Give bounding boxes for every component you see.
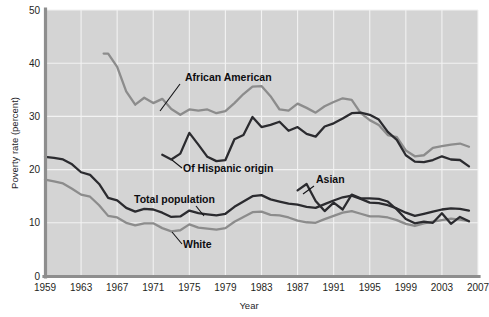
y-tick-label: 40	[29, 58, 41, 69]
series-label-total-population: Total population	[134, 193, 215, 205]
y-tick-label: 50	[29, 5, 41, 16]
chart-canvas: 01020304050 1959196319671971197519791983…	[0, 0, 489, 317]
y-tick-label: 0	[34, 271, 40, 282]
x-tick-label: 1983	[250, 282, 273, 293]
y-tick-label: 20	[29, 164, 41, 175]
x-tick-label: 1999	[395, 282, 418, 293]
x-tick-label: 1959	[34, 282, 57, 293]
series-label-of-hispanic-origin: Of Hispanic origin	[183, 162, 273, 174]
x-tick-label: 1991	[323, 282, 346, 293]
x-tick-label: 1975	[178, 282, 201, 293]
x-tick-label: 1979	[214, 282, 237, 293]
x-tick-label: 1967	[106, 282, 129, 293]
y-tick-label: 30	[29, 111, 41, 122]
x-tick-label: 1987	[286, 282, 309, 293]
series-label-white: White	[183, 238, 212, 250]
x-axis-title: Year	[239, 300, 258, 311]
series-label-african-american: African American	[185, 71, 272, 83]
y-axis-tick-labels: 01020304050	[29, 5, 41, 282]
series-label-asian: Asian	[316, 173, 345, 185]
x-tick-label: 2003	[431, 282, 454, 293]
poverty-rate-chart-figure: 01020304050 1959196319671971197519791983…	[0, 0, 489, 317]
y-axis-title: Poverty rate (percent)	[9, 97, 20, 189]
y-tick-label: 10	[29, 217, 41, 228]
x-tick-label: 1963	[70, 282, 93, 293]
x-tick-label: 1971	[142, 282, 165, 293]
x-tick-label: 1995	[359, 282, 382, 293]
x-tick-label: 2007	[467, 282, 489, 293]
x-axis-tick-labels: 1959196319671971197519791983198719911995…	[34, 282, 489, 293]
